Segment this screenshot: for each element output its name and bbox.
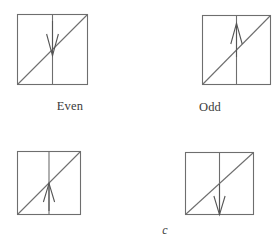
panel-caption-even: Even <box>0 100 140 113</box>
figure-panel-even: Even <box>0 0 140 122</box>
down-arrow-icon <box>214 184 225 215</box>
figure-grid: Even Odd c <box>0 0 280 243</box>
up-arrow-icon <box>231 23 242 57</box>
panel-caption-c-right: c <box>95 224 235 236</box>
down-arrow-icon <box>47 21 59 56</box>
panel-caption-odd: Odd <box>140 101 280 114</box>
figure-panel-odd: Odd <box>140 0 280 122</box>
panel-caption-c-left: c <box>0 224 49 236</box>
figure-panel-c-right: c <box>140 122 280 243</box>
